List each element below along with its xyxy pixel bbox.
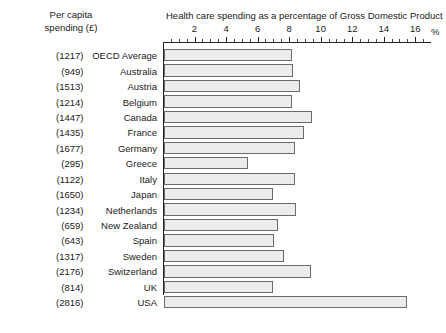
x-tick-minor bbox=[187, 39, 188, 42]
bar bbox=[164, 203, 296, 215]
x-tick-label: 4 bbox=[223, 23, 228, 34]
x-tick-minor bbox=[171, 39, 172, 42]
bar-row bbox=[164, 233, 431, 248]
country-label: Japan bbox=[85, 189, 160, 200]
bar bbox=[164, 250, 284, 262]
bar-row bbox=[164, 202, 431, 217]
country-label: Australia bbox=[85, 66, 160, 77]
country-label: New Zealand bbox=[85, 220, 160, 231]
x-tick-minor bbox=[336, 39, 337, 42]
per-capita-value: (2176) bbox=[0, 266, 85, 277]
per-capita-value: (814) bbox=[0, 282, 85, 293]
x-tick-major bbox=[195, 37, 196, 42]
per-capita-value: (659) bbox=[0, 220, 85, 231]
x-tick-major bbox=[384, 37, 385, 42]
bar-row bbox=[164, 295, 431, 310]
per-capita-value: (949) bbox=[0, 66, 85, 77]
x-tick-label: 8 bbox=[286, 23, 291, 34]
per-capita-column-header: Per capita spending (£) bbox=[12, 9, 130, 34]
bar bbox=[164, 173, 295, 185]
bar-row bbox=[164, 280, 431, 295]
per-capita-value: (1677) bbox=[0, 143, 85, 154]
x-tick-major bbox=[352, 37, 353, 42]
bar-row bbox=[164, 187, 431, 202]
country-label: OECD Average bbox=[85, 50, 160, 61]
x-tick-minor bbox=[265, 39, 266, 42]
row-label-list: (1217)OECD Average(949)Australia(1513)Au… bbox=[0, 48, 160, 310]
bar-row bbox=[164, 79, 431, 94]
country-label: Austria bbox=[85, 81, 160, 92]
percent-unit-label: % bbox=[431, 26, 439, 37]
bar bbox=[164, 64, 293, 76]
row-label: (1447)Canada bbox=[0, 110, 160, 125]
x-tick-label: 12 bbox=[347, 23, 358, 34]
x-tick-minor bbox=[179, 39, 180, 42]
per-capita-header-line1: Per capita bbox=[12, 9, 130, 22]
bar-row bbox=[164, 63, 431, 78]
bar-row bbox=[164, 48, 431, 63]
x-tick-minor bbox=[273, 39, 274, 42]
bar bbox=[164, 95, 292, 107]
x-tick-minor bbox=[202, 39, 203, 42]
row-label: (643)Spain bbox=[0, 233, 160, 248]
x-tick-minor bbox=[360, 39, 361, 42]
per-capita-value: (1650) bbox=[0, 189, 85, 200]
bar bbox=[164, 126, 304, 138]
x-tick-label: 16 bbox=[410, 23, 421, 34]
per-capita-value: (1435) bbox=[0, 127, 85, 138]
x-tick-label: 14 bbox=[378, 23, 389, 34]
per-capita-value: (1513) bbox=[0, 81, 85, 92]
per-capita-value: (1317) bbox=[0, 251, 85, 262]
x-tick-minor bbox=[250, 39, 251, 42]
per-capita-value: (1234) bbox=[0, 205, 85, 216]
country-label: Greece bbox=[85, 158, 160, 169]
x-tick-minor bbox=[399, 39, 400, 42]
bar bbox=[164, 281, 273, 293]
x-tick-major bbox=[258, 37, 259, 42]
x-tick-minor bbox=[344, 39, 345, 42]
plot-area: 246810121416 % bbox=[163, 48, 431, 295]
per-capita-value: (295) bbox=[0, 158, 85, 169]
row-label: (1435)France bbox=[0, 125, 160, 140]
country-label: USA bbox=[85, 297, 160, 308]
per-capita-value: (1217) bbox=[0, 50, 85, 61]
row-label: (1217)OECD Average bbox=[0, 48, 160, 63]
per-capita-value: (2816) bbox=[0, 297, 85, 308]
country-label: Sweden bbox=[85, 251, 160, 262]
per-capita-value: (1122) bbox=[0, 174, 85, 185]
bar bbox=[164, 80, 300, 92]
x-tick-label: 2 bbox=[192, 23, 197, 34]
bar-row bbox=[164, 156, 431, 171]
per-capita-header-line2: spending (£) bbox=[12, 22, 130, 35]
row-label: (1677)Germany bbox=[0, 141, 160, 156]
x-tick-minor bbox=[376, 39, 377, 42]
bar bbox=[164, 111, 312, 123]
chart-title: Health care spending as a percentage of … bbox=[166, 10, 443, 22]
bar bbox=[164, 188, 273, 200]
x-tick-minor bbox=[313, 39, 314, 42]
bar-row bbox=[164, 125, 431, 140]
x-tick-minor bbox=[234, 39, 235, 42]
x-axis-line bbox=[163, 42, 431, 43]
row-label: (1122)Italy bbox=[0, 172, 160, 187]
x-tick-major bbox=[226, 37, 227, 42]
country-label: Germany bbox=[85, 143, 160, 154]
bar bbox=[164, 265, 311, 277]
row-label: (1317)Sweden bbox=[0, 249, 160, 264]
bar-row bbox=[164, 264, 431, 279]
country-label: Italy bbox=[85, 174, 160, 185]
country-label: Canada bbox=[85, 112, 160, 123]
country-label: France bbox=[85, 127, 160, 138]
x-tick-minor bbox=[242, 39, 243, 42]
row-label: (659)New Zealand bbox=[0, 218, 160, 233]
bar bbox=[164, 142, 295, 154]
bar-row bbox=[164, 94, 431, 109]
x-tick-label: 10 bbox=[315, 23, 326, 34]
row-label: (1214)Belgium bbox=[0, 94, 160, 109]
x-tick-minor bbox=[305, 39, 306, 42]
row-label: (814)UK bbox=[0, 280, 160, 295]
bar-row bbox=[164, 110, 431, 125]
x-tick-minor bbox=[423, 39, 424, 42]
x-tick-minor bbox=[329, 39, 330, 42]
row-label: (2176)Switzerland bbox=[0, 264, 160, 279]
